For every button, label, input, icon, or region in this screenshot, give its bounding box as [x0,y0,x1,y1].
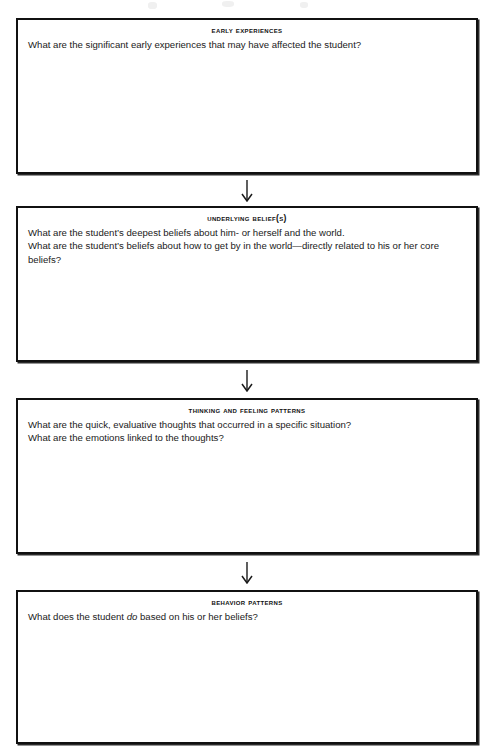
down-arrow-icon [239,370,255,392]
box-title-early-experiences: Early Experiences [18,26,476,36]
box-thinking-and-feeling-patterns: Thinking and Feeling Patterns What are t… [16,398,478,554]
box-underlying-beliefs: Underlying Belief(s) What are the studen… [16,206,478,362]
box-body-behavior-patterns: What does the student do based on his or… [18,610,476,623]
scan-artifact [222,1,234,7]
prompt-line: What does the student do based on his or… [28,610,466,623]
prompt-line: What are the student’s deepest beliefs a… [28,226,466,239]
box-body-early-experiences: What are the significant early experienc… [18,38,476,51]
prompt-line: What are the quick, evaluative thoughts … [28,418,466,431]
box-title-behavior-patterns: Behavior Patterns [18,598,476,608]
prompt-line: What are the student’s beliefs about how… [28,239,466,266]
box-body-thinking-and-feeling-patterns: What are the quick, evaluative thoughts … [18,418,476,445]
scan-artifact [148,2,157,9]
box-behavior-patterns: Behavior Patterns What does the student … [16,590,478,744]
prompt-line: What are the emotions linked to the thou… [28,431,466,444]
down-arrow-icon [239,180,255,202]
down-arrow-icon [239,562,255,584]
box-title-thinking-and-feeling-patterns: Thinking and Feeling Patterns [18,406,476,416]
box-early-experiences: Early Experiences What are the significa… [16,18,478,174]
box-title-underlying-beliefs: Underlying Belief(s) [18,214,476,224]
prompt-line: What are the significant early experienc… [28,38,466,51]
scan-artifact [300,2,308,8]
box-body-underlying-beliefs: What are the student’s deepest beliefs a… [18,226,476,266]
